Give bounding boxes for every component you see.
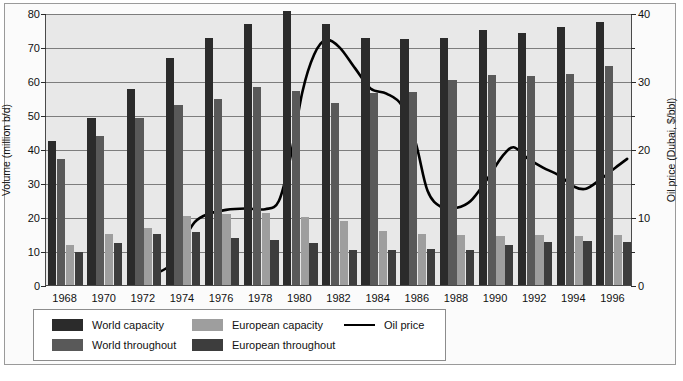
- y-axis-left-tick-mark: [41, 184, 46, 185]
- legend-item[interactable]: European throughout: [192, 339, 335, 351]
- bar: [174, 105, 182, 285]
- y-axis-right-tick-label: 30: [638, 76, 650, 88]
- x-axis-tick-label: 1976: [209, 292, 233, 304]
- bar: [370, 93, 378, 285]
- bar: [479, 30, 487, 285]
- legend-item-label: World capacity: [92, 319, 164, 331]
- y-axis-left-tick-mark: [41, 48, 46, 49]
- bar: [57, 159, 65, 285]
- bar: [331, 103, 339, 285]
- x-axis-tick-label: 1972: [131, 292, 155, 304]
- legend-swatch-icon: [192, 319, 223, 331]
- bar: [544, 242, 552, 285]
- y-axis-left-tick-mark: [41, 14, 46, 15]
- bar: [388, 250, 396, 285]
- y-axis-left-tick-mark: [41, 82, 46, 83]
- y-axis-left-label: Volume (million b/d): [0, 104, 12, 196]
- bar: [575, 236, 583, 285]
- x-axis-tick-label: 1984: [365, 292, 389, 304]
- y-axis-left-tick-mark: [41, 218, 46, 219]
- x-axis-tick-label: 1980: [287, 292, 311, 304]
- bar: [114, 243, 122, 285]
- y-axis-left-tick-mark: [41, 116, 46, 117]
- gridline: [46, 48, 631, 49]
- bar: [309, 243, 317, 286]
- bar: [75, 252, 83, 285]
- legend-item-label: Oil price: [384, 319, 424, 331]
- bar: [409, 92, 417, 285]
- x-axis-tick-label: 1990: [483, 292, 507, 304]
- bar: [183, 216, 191, 285]
- legend-line-icon: [344, 319, 375, 331]
- bar: [127, 89, 135, 285]
- legend-item[interactable]: World throughout: [52, 339, 176, 351]
- bar: [48, 141, 56, 285]
- y-axis-left-tick-mark: [41, 252, 46, 253]
- bar: [87, 118, 95, 285]
- bar: [222, 214, 230, 285]
- legend-item[interactable]: Oil price: [344, 319, 424, 331]
- bar: [270, 240, 278, 285]
- bar: [488, 75, 496, 285]
- legend-item[interactable]: World capacity: [52, 319, 164, 331]
- y-axis-right-minor-tick: [631, 184, 635, 185]
- bar: [535, 235, 543, 285]
- bar: [400, 39, 408, 286]
- gridline: [46, 82, 631, 83]
- bar: [379, 231, 387, 285]
- y-axis-right-tick-mark: [631, 14, 636, 15]
- y-axis-left-tick-label: 80: [28, 8, 40, 20]
- bar: [153, 234, 161, 285]
- bar: [448, 80, 456, 285]
- y-axis-right-tick-label: 40: [638, 8, 650, 20]
- y-axis-right-tick-mark: [631, 82, 636, 83]
- legend-item[interactable]: European capacity: [192, 319, 323, 331]
- bar: [466, 250, 474, 285]
- y-axis-right-tick-label: 10: [638, 212, 650, 224]
- bar: [361, 38, 369, 285]
- x-axis-tick-label: 1968: [52, 292, 76, 304]
- bar: [596, 22, 604, 285]
- bar: [96, 136, 104, 285]
- legend-swatch-icon: [52, 339, 83, 351]
- bar: [614, 235, 622, 285]
- y-axis-left-tick-mark: [41, 286, 46, 287]
- y-axis-left-tick-label: 30: [28, 178, 40, 190]
- bar: [262, 213, 270, 285]
- y-axis-left-tick-label: 20: [28, 212, 40, 224]
- x-axis-tick-label: 1982: [326, 292, 350, 304]
- bar: [527, 76, 535, 285]
- legend-item-label: European throughout: [232, 339, 335, 351]
- x-axis-tick-label: 1996: [600, 292, 624, 304]
- y-axis-right-tick-mark: [631, 286, 636, 287]
- bar: [583, 241, 591, 285]
- bar: [283, 11, 291, 285]
- bar: [105, 234, 113, 285]
- bar: [505, 245, 513, 285]
- y-axis-right-tick-mark: [631, 150, 636, 151]
- y-axis-right-minor-tick: [631, 252, 635, 253]
- bar: [340, 221, 348, 285]
- bar: [566, 74, 574, 285]
- y-axis-left-tick-label: 50: [28, 110, 40, 122]
- y-axis-right-minor-tick: [631, 116, 635, 117]
- bar: [66, 245, 74, 285]
- gridline: [46, 14, 631, 15]
- x-axis-tick-label: 1988: [444, 292, 468, 304]
- legend-swatch-icon: [52, 319, 83, 331]
- bar: [557, 27, 565, 285]
- bar: [440, 38, 448, 285]
- y-axis-left-tick-mark: [41, 150, 46, 151]
- bar: [144, 228, 152, 285]
- bar: [496, 236, 504, 285]
- y-axis-left-tick-label: 40: [28, 144, 40, 156]
- y-axis-right-minor-tick: [631, 48, 635, 49]
- x-axis-tick-label: 1992: [522, 292, 546, 304]
- bar: [623, 242, 631, 285]
- bar: [135, 118, 143, 285]
- y-axis-right-label: Oil price (Dubai, $/bbl): [665, 98, 677, 202]
- x-axis-tick-label: 1970: [91, 292, 115, 304]
- legend-item-label: World throughout: [92, 339, 176, 351]
- x-axis-tick-label: 1974: [170, 292, 194, 304]
- chart-legend: World capacityEuropean capacityOil price…: [33, 309, 446, 361]
